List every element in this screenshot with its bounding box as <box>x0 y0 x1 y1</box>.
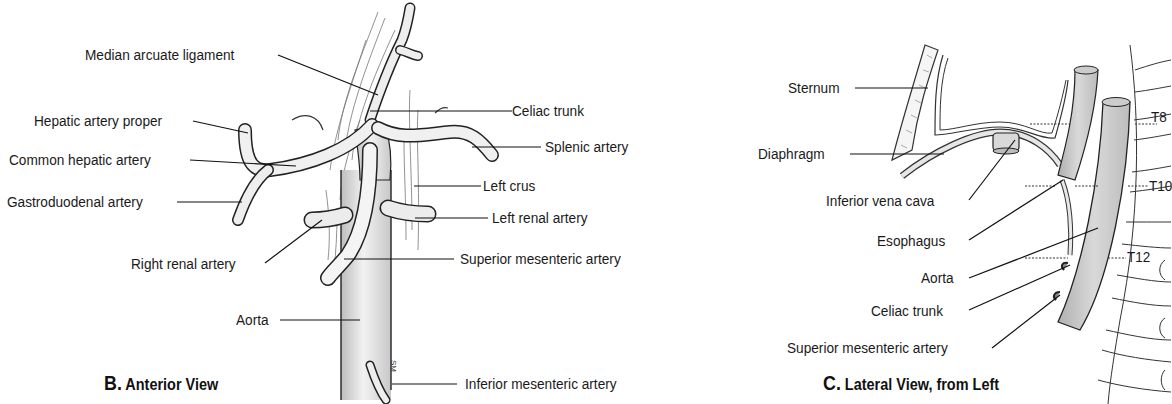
label-aorta-lateral: Aorta <box>921 269 954 287</box>
caption-text-b: Anterior View <box>125 375 218 394</box>
label-splenic-artery: Splenic artery <box>545 138 628 156</box>
label-superior-mesenteric-artery-lateral: Superior mesenteric artery <box>787 339 948 357</box>
caption-lateral-view: C. Lateral View, from Left <box>823 371 999 395</box>
label-gastroduodenal-artery: Gastroduodenal artery <box>7 193 143 211</box>
label-right-renal-artery: Right renal artery <box>131 255 236 273</box>
label-left-crus: Left crus <box>483 177 535 195</box>
label-superior-mesenteric-artery-anterior: Superior mesenteric artery <box>460 250 621 268</box>
artist-signature: SM <box>389 360 398 372</box>
caption-anterior-view: B. Anterior View <box>104 371 218 395</box>
label-hepatic-artery-proper: Hepatic artery proper <box>34 112 162 130</box>
label-diaphragm: Diaphragm <box>758 145 825 163</box>
caption-letter-c: C. <box>823 371 841 394</box>
label-celiac-trunk-anterior: Celiac trunk <box>512 102 584 120</box>
label-inferior-vena-cava: Inferior vena cava <box>826 192 934 210</box>
label-sternum: Sternum <box>788 79 840 97</box>
anterior-view-drawing: SM <box>177 8 541 400</box>
vertebra-level-t12: T12 <box>1127 248 1150 265</box>
label-left-renal-artery: Left renal artery <box>492 209 588 227</box>
label-esophagus: Esophagus <box>877 232 945 250</box>
vertebra-level-t10: T10 <box>1149 177 1172 194</box>
label-median-arcuate-ligament: Median arcuate ligament <box>85 46 234 64</box>
label-celiac-trunk-lateral: Celiac trunk <box>871 302 943 320</box>
vertebra-level-t8: T8 <box>1151 108 1167 125</box>
caption-letter-b: B. <box>104 371 122 394</box>
label-common-hepatic-artery: Common hepatic artery <box>9 151 151 169</box>
caption-text-c: Lateral View, from Left <box>845 375 999 394</box>
label-aorta-anterior: Aorta <box>236 311 269 329</box>
label-inferior-mesenteric-artery: Inferior mesenteric artery <box>465 375 617 393</box>
